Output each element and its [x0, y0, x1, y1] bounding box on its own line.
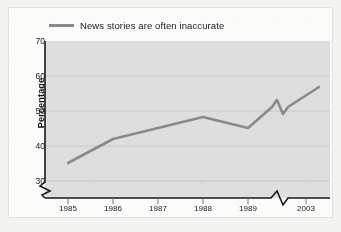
plot-area	[9, 8, 334, 219]
line-chart-svg	[9, 8, 334, 219]
chart-figure: News stories are often inaccurate Percen…	[8, 7, 333, 218]
x-axis-ticks	[68, 198, 306, 204]
